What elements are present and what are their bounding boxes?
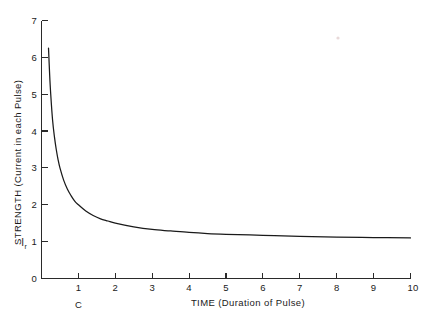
- x-tick-label-4: 4: [186, 282, 191, 293]
- strength-duration-chart: 7 6 5 4 3 2 1 0 I r 1: [0, 0, 427, 316]
- y-tick-label-5: 5: [32, 89, 37, 100]
- chronaxie-marker-label: C: [75, 299, 82, 310]
- chart-figure: 7 6 5 4 3 2 1 0 I r 1: [0, 0, 427, 316]
- x-tick-label-3: 3: [149, 282, 154, 293]
- chart-background: [0, 0, 427, 316]
- x-tick-label-6: 6: [260, 282, 265, 293]
- x-axis-title: TIME (Duration of Pulse): [191, 297, 305, 308]
- x-tick-label-10: 10: [408, 282, 419, 293]
- x-tick-label-1: 1: [76, 282, 81, 293]
- x-tick-label-2: 2: [113, 282, 118, 293]
- y-tick-label-0: 0: [32, 273, 37, 284]
- x-tick-label-7: 7: [297, 282, 302, 293]
- y-tick-label-2: 2: [32, 199, 37, 210]
- x-tick-label-9: 9: [371, 282, 376, 293]
- y-tick-label-1: 1: [32, 236, 37, 247]
- y-axis-title: STRENGTH (Current in each Pulse): [12, 80, 23, 245]
- y-tick-label-6: 6: [32, 52, 37, 63]
- x-tick-label-8: 8: [334, 282, 339, 293]
- y-tick-label-4: 4: [32, 126, 37, 137]
- y-tick-label-3: 3: [32, 162, 37, 173]
- y-tick-label-7: 7: [32, 15, 37, 26]
- x-tick-label-5: 5: [223, 282, 228, 293]
- scan-artifact-speck: [336, 36, 339, 39]
